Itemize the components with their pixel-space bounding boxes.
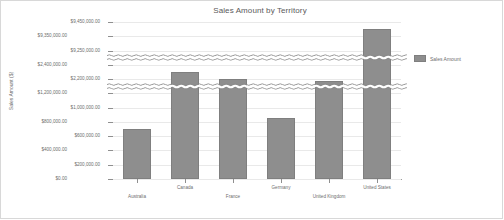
y-axis-label: $9,450,000.00	[71, 19, 100, 25]
legend-swatch-sales-amount	[414, 55, 426, 62]
y-axis-label: $9,350,000.00	[38, 33, 67, 39]
gridline	[113, 51, 401, 52]
chart-container: Sales Amount by Territory Sales Amount (…	[0, 0, 504, 220]
x-axis-tick	[137, 179, 138, 183]
y-axis-label: $2,200,000.00	[71, 76, 100, 82]
y-axis-tick	[108, 136, 113, 137]
y-axis-tick	[108, 165, 113, 166]
x-axis-label: United Kingdom	[299, 194, 359, 200]
y-axis-tick	[108, 22, 113, 23]
gridline	[113, 136, 401, 137]
gridline	[113, 22, 401, 23]
x-axis-label: Australia	[107, 194, 167, 200]
gridline	[113, 150, 401, 151]
y-axis-label: $0.00	[56, 176, 68, 182]
y-axis-tick	[108, 179, 113, 180]
gridline	[113, 79, 401, 80]
bar-united-states[interactable]	[363, 29, 392, 179]
x-axis-tick	[281, 179, 282, 183]
legend-label-sales-amount: Sales Amount	[430, 56, 461, 62]
gridline	[113, 108, 401, 109]
x-axis-tick	[377, 179, 378, 183]
y-axis-tick	[108, 93, 113, 94]
y-axis-label: $2,400,000.00	[38, 62, 67, 68]
plot-area	[113, 22, 401, 179]
x-axis-tick	[329, 179, 330, 183]
x-axis-tick	[233, 179, 234, 183]
bar-canada[interactable]	[171, 72, 200, 179]
y-axis-tick	[108, 122, 113, 123]
chart-title: Sales Amount by Territory	[150, 6, 370, 15]
y-axis-label: $800,000.00	[41, 119, 67, 125]
gridline	[113, 165, 401, 166]
bar-france[interactable]	[219, 79, 248, 179]
x-axis-label: Canada	[155, 185, 215, 191]
y-axis-tick	[108, 150, 113, 151]
y-axis-label: $400,000.00	[41, 147, 67, 153]
x-axis-label: France	[203, 194, 263, 200]
y-axis-tick	[108, 36, 113, 37]
y-axis-label: $200,000.00	[74, 162, 100, 168]
bar-united-kingdom[interactable]	[315, 81, 344, 179]
y-axis-tick	[108, 108, 113, 109]
y-axis-label: $9,250,000.00	[71, 48, 100, 54]
y-axis-tick	[108, 51, 113, 52]
y-axis-label: $1,200,000.00	[38, 90, 67, 96]
y-axis-tick	[108, 79, 113, 80]
plot-background	[113, 22, 401, 179]
gridline	[113, 65, 401, 66]
legend: Sales Amount	[414, 55, 461, 62]
gridline	[113, 179, 401, 180]
gridline	[113, 36, 401, 37]
x-axis-label: Germany	[251, 185, 311, 191]
x-axis-label: United States	[347, 185, 407, 191]
gridline	[113, 122, 401, 123]
y-axis-label: $1,000,000.00	[71, 105, 100, 111]
y-axis-label: $600,000.00	[74, 133, 100, 139]
x-axis-tick	[185, 179, 186, 183]
y-axis-tick	[108, 65, 113, 66]
bar-australia[interactable]	[123, 129, 152, 179]
bar-germany[interactable]	[267, 118, 296, 179]
y-axis-title: Sales Amount ($)	[8, 56, 14, 126]
gridline	[113, 93, 401, 94]
